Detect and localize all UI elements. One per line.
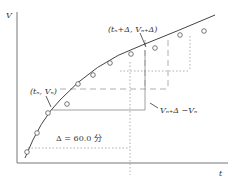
label-point-n-delta: (tₙ+Δ, Vₙ₊Δ)	[108, 25, 157, 34]
label-interval: Δ = 60.0 分	[56, 134, 102, 143]
x-axis-label: t	[219, 169, 223, 178]
y-axis-label: V	[6, 11, 13, 20]
label-point-n: (tₙ, Vₙ)	[30, 87, 57, 96]
arrow-point-n	[46, 96, 51, 107]
arrow-difference	[150, 103, 158, 108]
label-difference: Vₙ₊Δ −Vₙ	[160, 106, 197, 115]
diagram: V t (tₙ, Vₙ) (tₙ+Δ, Vₙ₊Δ) Vₙ₊Δ −Vₙ Δ = 6…	[0, 0, 236, 178]
